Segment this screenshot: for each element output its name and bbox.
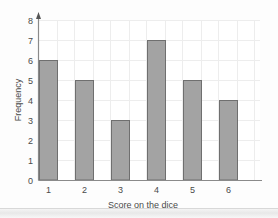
y-tick-labels: 0 1 2 3 4 5 6 7 8 [28,16,33,186]
bar-category-4 [148,41,166,181]
y-tick-label-2: 2 [28,136,33,146]
x-tick-label-3: 3 [118,185,123,195]
x-tick-label-2: 2 [82,185,87,195]
page-bottom-band [0,209,278,218]
y-axis-arrow-icon [36,12,41,19]
x-tick-label-4: 4 [154,185,159,195]
y-tick-label-1: 1 [28,156,33,166]
bar-category-3 [112,121,130,181]
bar-category-1 [40,61,58,181]
bar-category-6 [220,101,238,181]
chart-canvas: 0 1 2 3 4 5 6 7 8 1 2 3 4 5 6 Frequency … [0,0,278,218]
bar-category-5 [184,81,202,181]
x-tick-label-5: 5 [190,185,195,195]
y-axis-title: Frequency [13,78,23,121]
y-tick-label-0: 0 [28,176,33,186]
y-tick-label-7: 7 [28,36,33,46]
y-tick-label-5: 5 [28,76,33,86]
bar-chart-figure: 0 1 2 3 4 5 6 7 8 1 2 3 4 5 6 Frequency … [0,0,278,218]
x-tick-label-1: 1 [46,185,51,195]
y-tick-label-3: 3 [28,116,33,126]
x-tick-label-6: 6 [226,185,231,195]
y-tick-label-4: 4 [28,96,33,106]
bar-category-2 [76,81,94,181]
y-tick-label-8: 8 [28,16,33,26]
x-tick-labels: 1 2 3 4 5 6 [46,185,231,195]
y-tick-label-6: 6 [28,56,33,66]
